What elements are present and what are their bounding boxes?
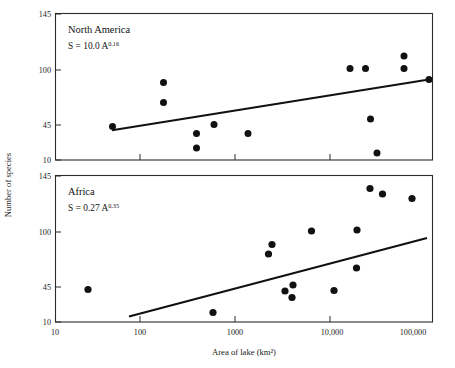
data-point — [245, 130, 252, 137]
x-ticklabel-100: 100 — [134, 328, 146, 337]
data-point — [160, 79, 167, 86]
data-point — [289, 281, 296, 288]
data-point — [362, 65, 369, 72]
panel-frame-north-america — [56, 14, 433, 161]
data-point — [367, 116, 374, 123]
data-point — [268, 241, 275, 248]
data-point — [426, 76, 433, 83]
figure-canvas: Number of species 145 100 45 10 — [0, 0, 455, 368]
data-point — [193, 145, 200, 152]
panel-title-africa: Africa — [68, 186, 95, 197]
equation-main-africa: S = 0.27 A — [68, 203, 108, 213]
data-point — [379, 190, 386, 197]
data-point — [408, 195, 415, 202]
data-point — [308, 227, 315, 234]
data-point — [84, 286, 91, 293]
y-ticks-africa — [56, 176, 62, 322]
regression-line-north-america — [112, 80, 429, 131]
panel-title-north-america: North America — [68, 24, 130, 35]
y-ticklabel-45: 45 — [43, 121, 51, 130]
x-ticklabel-10000: 10,000 — [321, 328, 344, 337]
y-axis-title-group: Number of species — [3, 152, 13, 217]
x-ticklabel-10: 10 — [51, 328, 59, 337]
equation-exponent-africa: 0.35 — [108, 202, 119, 209]
x-ticks-africa — [140, 316, 330, 322]
equation-main-north-america: S = 10.0 A — [68, 41, 108, 51]
panel-north-america: 145 100 45 10 North America S = 10.0 A0.… — [39, 10, 433, 165]
data-point — [193, 130, 200, 137]
species-area-figure: Number of species 145 100 45 10 — [0, 0, 455, 368]
y-ticklabel-145: 145 — [39, 10, 51, 19]
data-point — [281, 287, 288, 294]
panel-africa: 145 100 45 10 10 100 1000 10,000 100,000… — [39, 172, 433, 357]
data-point — [288, 294, 295, 301]
regression-line-africa — [129, 238, 427, 317]
y-ticks-north-america — [56, 14, 62, 160]
data-point — [374, 150, 381, 157]
data-point — [265, 250, 272, 257]
panel-equation-africa: S = 0.27 A0.35 — [68, 202, 119, 213]
data-point — [160, 99, 167, 106]
data-point — [347, 65, 354, 72]
x-ticklabel-1000: 1000 — [227, 328, 243, 337]
y-ticklabel-10-africa: 10 — [43, 318, 51, 327]
x-axis-title: Area of lake (km²) — [212, 347, 276, 357]
x-ticklabel-100000: 100,000 — [400, 328, 427, 337]
data-point — [109, 123, 116, 130]
data-point — [353, 264, 360, 271]
panel-frame-africa — [56, 176, 433, 323]
y-ticklabel-100-africa: 100 — [39, 228, 51, 237]
data-point — [401, 53, 408, 60]
data-point — [401, 65, 408, 72]
data-point — [209, 309, 216, 316]
data-point — [211, 121, 218, 128]
x-ticks-north-america — [140, 154, 330, 160]
y-axis-title: Number of species — [3, 152, 13, 217]
y-ticklabel-145-africa: 145 — [39, 172, 51, 181]
y-ticklabel-100: 100 — [39, 66, 51, 75]
equation-exponent-north-america: 0.16 — [108, 40, 119, 47]
y-ticklabel-10: 10 — [43, 156, 51, 165]
y-ticklabels-africa: 145 100 45 10 — [39, 172, 51, 327]
y-ticklabels-north-america: 145 100 45 10 — [39, 10, 51, 165]
datapoints-africa — [84, 185, 415, 316]
y-ticklabel-45-africa: 45 — [43, 283, 51, 292]
data-point — [366, 185, 373, 192]
data-point — [330, 287, 337, 294]
panel-equation-north-america: S = 10.0 A0.16 — [68, 40, 119, 51]
x-ticklabels: 10 100 1000 10,000 100,000 — [51, 328, 426, 337]
data-point — [353, 226, 360, 233]
